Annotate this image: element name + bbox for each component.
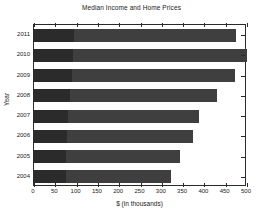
bar-segment-income <box>34 89 70 102</box>
x-axis-tick <box>34 183 35 187</box>
y-axis-tick <box>34 76 38 77</box>
x-axis-tick-label: 0 <box>31 188 34 194</box>
bar-segment-home-price <box>68 110 200 123</box>
y-axis-tick <box>34 157 38 158</box>
x-axis-tick-top <box>162 23 163 27</box>
x-axis-tick-top <box>183 23 184 27</box>
bar-segment-income <box>34 110 68 123</box>
x-axis-tick <box>119 183 120 187</box>
y-axis-label: Year <box>3 78 10 122</box>
x-axis-tick-top <box>247 23 248 27</box>
bar-row <box>34 170 171 183</box>
bar-row <box>34 69 235 82</box>
x-axis-tick-label: 100 <box>71 188 81 194</box>
x-axis-tick-label: 300 <box>156 188 166 194</box>
bar-segment-home-price <box>66 170 172 183</box>
x-axis-tick-top <box>119 23 120 27</box>
x-axis-tick <box>141 183 142 187</box>
bar-segment-home-price <box>74 29 236 42</box>
y-axis-tick <box>34 96 38 97</box>
plot-inner <box>34 25 245 185</box>
x-axis-tick-label: 200 <box>113 188 123 194</box>
bar-segment-income <box>34 170 66 183</box>
bar-segment-home-price <box>72 69 235 82</box>
y-axis-tick-label: 2008 <box>6 92 30 98</box>
bar-row <box>34 49 247 62</box>
bar-segment-income <box>34 130 67 143</box>
y-axis-tick-label: 2010 <box>6 51 30 57</box>
x-axis-tick-top <box>34 23 35 27</box>
y-axis-tick <box>34 177 38 178</box>
bar-segment-home-price <box>66 150 180 163</box>
x-axis-tick-top <box>55 23 56 27</box>
x-axis-tick <box>55 183 56 187</box>
y-axis-tick <box>34 35 38 36</box>
y-axis-tick-right <box>241 55 245 56</box>
x-axis-tick-label: 350 <box>177 188 187 194</box>
bar-row <box>34 29 236 42</box>
bar-row <box>34 150 180 163</box>
x-axis-tick <box>247 183 248 187</box>
bar-segment-income <box>34 49 73 62</box>
y-axis-tick-label: 2005 <box>6 153 30 159</box>
x-axis-tick <box>162 183 163 187</box>
y-axis-tick-right <box>241 177 245 178</box>
x-axis-tick <box>98 183 99 187</box>
y-axis-tick <box>34 116 38 117</box>
x-axis-tick-label: 250 <box>134 188 144 194</box>
y-axis-tick <box>34 136 38 137</box>
x-axis-tick-label: 450 <box>220 188 230 194</box>
x-axis-tick-top <box>141 23 142 27</box>
x-axis-tick <box>226 183 227 187</box>
y-axis-tick-label: 2006 <box>6 132 30 138</box>
chart-title: Median Income and Home Prices <box>0 4 263 11</box>
y-axis-tick-right <box>241 116 245 117</box>
bar-row <box>34 110 199 123</box>
x-axis-tick-label: 150 <box>92 188 102 194</box>
y-axis-tick-right <box>241 76 245 77</box>
bar-row <box>34 89 217 102</box>
y-axis-tick-label: 2004 <box>6 173 30 179</box>
y-axis-tick-right <box>241 157 245 158</box>
x-axis-tick-top <box>77 23 78 27</box>
y-axis-tick-right <box>241 35 245 36</box>
bar-row <box>34 130 193 143</box>
x-axis-tick-top <box>226 23 227 27</box>
plot-area <box>33 24 246 186</box>
y-axis-tick-label: 2011 <box>6 31 30 37</box>
bar-segment-home-price <box>73 49 247 62</box>
x-axis-tick-label: 500 <box>241 188 251 194</box>
x-axis-tick-label: 50 <box>51 188 58 194</box>
y-axis-tick <box>34 55 38 56</box>
bar-segment-home-price <box>70 89 217 102</box>
y-axis-tick-right <box>241 136 245 137</box>
x-axis-tick-label: 400 <box>198 188 208 194</box>
x-axis-tick-top <box>204 23 205 27</box>
x-axis-tick-top <box>98 23 99 27</box>
x-axis-label: $ (in thousands) <box>33 200 246 207</box>
x-axis-tick <box>77 183 78 187</box>
figure-canvas: Median Income and Home Prices 0501001502… <box>0 0 263 220</box>
bar-segment-income <box>34 29 74 42</box>
x-axis-tick <box>183 183 184 187</box>
bar-segment-income <box>34 69 72 82</box>
bar-segment-home-price <box>67 130 193 143</box>
y-axis-tick-label: 2007 <box>6 112 30 118</box>
y-axis-tick-label: 2009 <box>6 72 30 78</box>
bar-segment-income <box>34 150 66 163</box>
x-axis-tick <box>204 183 205 187</box>
y-axis-tick-right <box>241 96 245 97</box>
